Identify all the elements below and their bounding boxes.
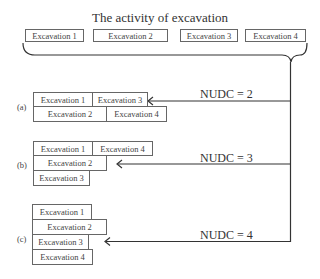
a-excavation-3: Excavation 3 — [92, 92, 148, 107]
b-excavation-4: Excavation 4 — [92, 141, 153, 156]
nudc-a-label: NUDC = 2 — [200, 87, 253, 102]
scenario-b-tag: (b) — [17, 160, 27, 170]
c-excavation-4: Excavation 4 — [32, 249, 93, 265]
b-excavation-3: Excavation 3 — [33, 170, 90, 186]
a-excavation-1: Excavation 1 — [33, 92, 93, 107]
c-excavation-3: Excavation 3 — [32, 234, 89, 250]
c-excavation-2: Excavation 2 — [32, 219, 107, 235]
nudc-b-label: NUDC = 3 — [200, 151, 253, 166]
c-excavation-1: Excavation 1 — [32, 204, 92, 220]
b-excavation-2: Excavation 2 — [33, 155, 107, 171]
a-excavation-4: Excavation 4 — [106, 106, 167, 122]
a-excavation-2: Excavation 2 — [33, 106, 107, 122]
nudc-c-label: NUDC = 4 — [200, 228, 253, 243]
scenario-c-tag: (c) — [17, 234, 26, 244]
scenario-a-tag: (a) — [17, 102, 26, 112]
b-excavation-1: Excavation 1 — [33, 141, 93, 156]
